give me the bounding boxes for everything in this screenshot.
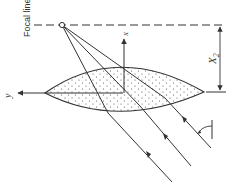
x-axis-label: x (120, 32, 130, 37)
angle-arc (199, 126, 212, 132)
y-axis-label: y (2, 93, 13, 99)
ray-2-arrow-icon (163, 133, 168, 140)
lens-focusing-diagram: Focal line y x X2 (0, 0, 241, 182)
ray-3-arrow-icon (182, 116, 187, 123)
x2-label: X2 (206, 53, 221, 65)
focal-point (59, 22, 64, 27)
focal-line-label: Focal line (22, 0, 32, 37)
ray-arrows (146, 116, 187, 158)
